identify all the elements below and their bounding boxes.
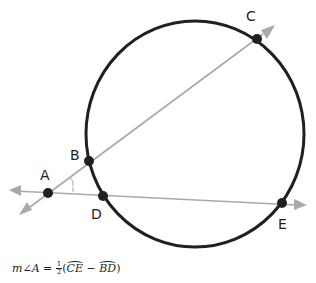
- formula-minus: −: [87, 262, 96, 275]
- point-e: [277, 198, 287, 208]
- arrow-ade-left-icon: [9, 185, 21, 196]
- secant-diagram: [0, 0, 316, 283]
- circle: [86, 21, 304, 247]
- arrow-e-icon: [294, 199, 307, 210]
- formula-equals: =: [43, 262, 52, 275]
- angle-mark-icon: [70, 177, 73, 186]
- label-a: A: [40, 168, 50, 182]
- arc-ce: CE: [67, 262, 83, 275]
- label-c: C: [246, 9, 256, 23]
- secant-ade-line: [15, 191, 296, 205]
- arrow-c-icon: [261, 25, 275, 39]
- label-d: D: [91, 207, 102, 221]
- point-d: [98, 191, 108, 201]
- arc-bd: BD: [99, 262, 116, 275]
- point-a: [43, 188, 53, 198]
- arrow-abc-left-icon: [19, 202, 32, 215]
- angle-formula: m∠A = 1 2 (CE − BD): [12, 261, 120, 276]
- point-c: [252, 34, 262, 44]
- point-b: [84, 156, 94, 166]
- formula-lhs: m∠A: [12, 262, 40, 275]
- label-e: E: [278, 217, 287, 231]
- formula-close-paren: ): [116, 262, 120, 275]
- label-b: B: [70, 148, 80, 162]
- secant-abc-line: [26, 34, 263, 210]
